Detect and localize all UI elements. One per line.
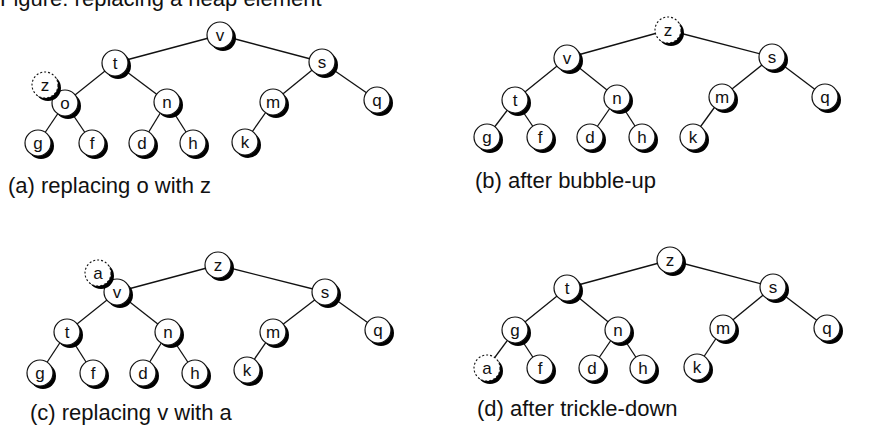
node-label: h <box>190 364 199 383</box>
node-h: h <box>630 355 659 384</box>
node-z-replacement: z <box>32 72 61 101</box>
node-label: t <box>65 323 70 342</box>
node-label: s <box>769 278 778 297</box>
node-g: g <box>27 360 56 389</box>
node-g: g <box>474 124 503 153</box>
node-label: s <box>768 48 777 67</box>
node-label: z <box>666 251 675 270</box>
node-s: s <box>759 44 788 73</box>
node-label: h <box>638 359 647 378</box>
node-label: z <box>41 76 50 95</box>
node-label: g <box>510 321 519 340</box>
node-a-replacement: a <box>85 260 114 289</box>
node-label: m <box>266 93 280 112</box>
node-label: t <box>113 54 118 73</box>
node-label: a <box>482 359 492 378</box>
caption-panel-d: (d) after trickle-down <box>477 396 678 422</box>
node-label: n <box>612 89 621 108</box>
node-label: d <box>137 134 146 153</box>
node-label: d <box>138 364 147 383</box>
node-label: o <box>60 94 69 113</box>
node-n: n <box>154 89 183 118</box>
node-label: k <box>243 361 252 380</box>
node-k: k <box>680 124 709 153</box>
node-h: h <box>182 360 211 389</box>
node-d: d <box>579 355 608 384</box>
node-label: f <box>90 134 95 153</box>
node-m: m <box>710 315 739 344</box>
node-z-replacement: z <box>655 17 684 46</box>
node-f: f <box>79 130 108 159</box>
node-label: n <box>162 93 171 112</box>
node-k: k <box>232 129 261 158</box>
caption-panel-a: (a) replacing o with z <box>8 173 211 199</box>
node-label: k <box>241 133 250 152</box>
node-label: d <box>585 128 594 147</box>
node-d: d <box>129 130 158 159</box>
node-s: s <box>312 279 341 308</box>
node-g: g <box>25 130 54 159</box>
node-label: q <box>372 91 381 110</box>
node-label: z <box>214 256 223 275</box>
node-label: q <box>820 88 829 107</box>
caption-panel-c: (c) replacing v with a <box>30 400 232 426</box>
node-f: f <box>527 355 556 384</box>
node-label: f <box>538 359 543 378</box>
node-d: d <box>130 360 159 389</box>
node-t: t <box>102 50 131 79</box>
node-s: s <box>760 274 789 303</box>
edge-v-t <box>115 35 220 63</box>
node-label: h <box>188 134 197 153</box>
node-v: v <box>554 45 583 74</box>
node-h: h <box>180 130 209 159</box>
node-label: n <box>613 321 622 340</box>
node-label: s <box>318 53 327 72</box>
node-q: q <box>812 84 841 113</box>
node-label: t <box>565 279 570 298</box>
node-k: k <box>684 354 713 383</box>
node-a-replacement: a <box>474 355 503 384</box>
tree-panel-c: zvstnmqgfdhka <box>27 252 394 389</box>
tree-panel-d: ztsgnmqfdhka <box>474 247 843 384</box>
caption-panel-b: (b) after bubble-up <box>475 168 656 194</box>
node-f: f <box>527 124 556 153</box>
node-label: f <box>538 128 543 147</box>
node-label: k <box>689 128 698 147</box>
node-q: q <box>814 315 843 344</box>
node-label: h <box>637 128 646 147</box>
node-label: q <box>822 319 831 338</box>
node-label: v <box>216 26 225 45</box>
node-label: d <box>587 359 596 378</box>
node-label: g <box>33 134 42 153</box>
node-label: g <box>35 364 44 383</box>
node-label: m <box>266 323 280 342</box>
node-label: q <box>373 321 382 340</box>
tree-panel-a: vtsonmqgfdhkz <box>25 22 393 159</box>
node-v: v <box>207 22 236 51</box>
node-label: v <box>113 283 122 302</box>
node-f: f <box>80 360 109 389</box>
edge-z-t <box>567 260 670 288</box>
node-label: k <box>693 358 702 377</box>
node-q: q <box>364 87 393 116</box>
edge-z-s <box>218 265 325 292</box>
node-h: h <box>629 124 658 153</box>
node-label: m <box>716 319 730 338</box>
node-d: d <box>577 124 606 153</box>
node-label: z <box>664 21 673 40</box>
edge-z-v <box>117 265 218 292</box>
node-t: t <box>554 275 583 304</box>
node-z: z <box>205 252 234 281</box>
node-q: q <box>365 317 394 346</box>
node-label: v <box>563 49 572 68</box>
node-label: t <box>513 91 518 110</box>
node-label: m <box>715 88 729 107</box>
node-z: z <box>657 247 686 276</box>
node-label: a <box>93 264 103 283</box>
node-s: s <box>309 49 338 78</box>
tree-diagrams-canvas: vtsonmqgfdhkzvstnmqgfdhkzzvstnmqgfdhkazt… <box>0 0 889 435</box>
node-label: s <box>321 283 330 302</box>
node-label: n <box>163 323 172 342</box>
node-label: g <box>482 128 491 147</box>
edge-z-v <box>567 30 668 58</box>
